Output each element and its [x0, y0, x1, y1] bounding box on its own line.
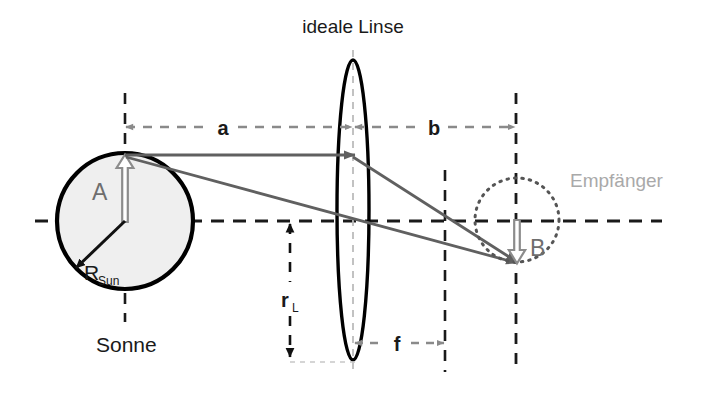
dimension-f: f: [355, 333, 444, 355]
dimension-rL: r L: [281, 224, 299, 357]
dimension-rL-label: r: [281, 289, 289, 311]
dimension-a-label: a: [217, 117, 229, 139]
dimension-a: a: [126, 117, 352, 139]
optics-diagram-figure: A R Sun Sonne ideale Linse Empfänger B a: [0, 0, 708, 415]
dimension-f-label: f: [394, 333, 401, 355]
sun-caption: Sonne: [96, 333, 157, 356]
dimension-b-label: b: [428, 117, 440, 139]
receiver-label: Empfänger: [570, 170, 664, 191]
sun-radius-subscript: Sun: [98, 274, 119, 288]
ray-parallel-refracted: [353, 157, 517, 262]
image-amplitude-label: B: [530, 235, 545, 261]
dimension-rL-subscript: L: [292, 301, 299, 315]
sun-radius-label: R: [84, 261, 99, 284]
sun-amplitude-label: A: [92, 179, 108, 205]
lens-title: ideale Linse: [302, 16, 403, 37]
optics-diagram-svg: A R Sun Sonne ideale Linse Empfänger B a: [0, 0, 708, 415]
dimension-b: b: [355, 117, 515, 139]
